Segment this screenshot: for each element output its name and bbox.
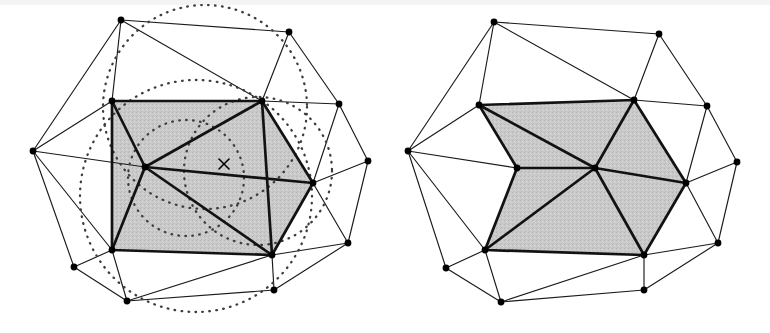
mesh-vertex-right-upper-apex (704, 103, 711, 110)
mesh-vertex-cavity-upper-left (476, 102, 483, 109)
mesh-edge (479, 22, 494, 105)
triangulation-figure (0, 0, 770, 333)
mesh-edge (494, 22, 659, 34)
mesh-edge (501, 255, 644, 302)
left-panel (30, 5, 372, 312)
mesh-edge (272, 255, 274, 290)
mesh-vertex-bottom-right-apex (641, 287, 648, 294)
mesh-edge (339, 104, 368, 161)
mesh-edge (313, 104, 339, 183)
mesh-vertex-top-left-apex (491, 19, 498, 26)
mesh-vertex-cavity-reflex-left (514, 165, 521, 172)
mesh-vertex-right-apex (734, 159, 741, 166)
figure-root (0, 0, 770, 333)
mesh-edge (718, 162, 737, 243)
mesh-vertex-top-left-apex (118, 17, 125, 24)
mesh-edge (634, 100, 707, 106)
mesh-vertex-left-apex (405, 148, 412, 155)
mesh-vertex-bottom-apex (498, 299, 505, 306)
mesh-vertex-top-right-apex (656, 31, 663, 38)
mesh-edge (74, 250, 112, 267)
mesh-edge (33, 20, 121, 151)
mesh-vertex-cavity-hub (142, 164, 149, 171)
mesh-edge (274, 243, 348, 290)
mesh-vertex-cavity-upper-right (259, 98, 266, 105)
mesh-edge (408, 151, 517, 168)
mesh-edge (446, 250, 485, 268)
mesh-edge (408, 22, 494, 151)
mesh-vertex-top-right-apex (286, 29, 293, 36)
mesh-edge (262, 101, 339, 104)
mesh-vertex-cavity-upper-left (109, 98, 116, 105)
mesh-edge (408, 105, 479, 151)
mesh-vertex-right-apex (365, 158, 372, 165)
mesh-vertex-right-lower-apex (715, 240, 722, 247)
mesh-vertex-bottom-apex (124, 298, 131, 305)
mesh-edge (408, 151, 485, 250)
mesh-vertex-left-apex (30, 148, 37, 155)
mesh-vertex-bottom-right-apex (271, 287, 278, 294)
mesh-edge (659, 34, 707, 106)
mesh-vertex-cavity-hub (592, 165, 599, 172)
mesh-edge (121, 20, 289, 32)
mesh-edge (313, 161, 368, 183)
mesh-edge (127, 255, 272, 301)
mesh-edge (313, 183, 348, 243)
mesh-edge (262, 32, 289, 101)
mesh-edge (686, 106, 707, 183)
mesh-vertex-cavity-right (683, 180, 690, 187)
mesh-vertex-right-lower-apex (345, 240, 352, 247)
mesh-edge (408, 151, 446, 268)
mesh-edge (686, 183, 718, 243)
mesh-edge (686, 162, 737, 183)
mesh-edge (289, 32, 339, 104)
mesh-edge (707, 106, 737, 162)
mesh-vertex-lower-left-apex (71, 264, 78, 271)
cavity-region-texture (112, 101, 313, 255)
mesh-edge (644, 243, 718, 255)
top-edge-band (0, 0, 770, 5)
mesh-edge (272, 243, 348, 255)
mesh-edge (33, 151, 112, 250)
mesh-edge (348, 161, 368, 243)
mesh-vertex-cavity-lower-right (269, 252, 276, 259)
mesh-edge (446, 268, 501, 302)
mesh-edge (501, 290, 644, 302)
mesh-edge (33, 151, 74, 267)
mesh-edge (494, 22, 634, 100)
mesh-vertex-cavity-right (310, 180, 317, 187)
mesh-edge (33, 101, 112, 151)
mesh-vertex-cavity-lower-left (482, 247, 489, 254)
mesh-vertex-cavity-lower-right (641, 252, 648, 259)
mesh-edge (121, 20, 262, 101)
right-panel (405, 19, 741, 306)
mesh-edge (644, 243, 718, 290)
mesh-vertex-cavity-lower-left (109, 247, 116, 254)
mesh-vertex-cavity-upper-right (631, 97, 638, 104)
mesh-edge (127, 290, 274, 301)
mesh-edge (634, 34, 659, 100)
mesh-vertex-right-upper-apex (336, 101, 343, 108)
mesh-vertex-lower-left-apex (443, 265, 450, 272)
